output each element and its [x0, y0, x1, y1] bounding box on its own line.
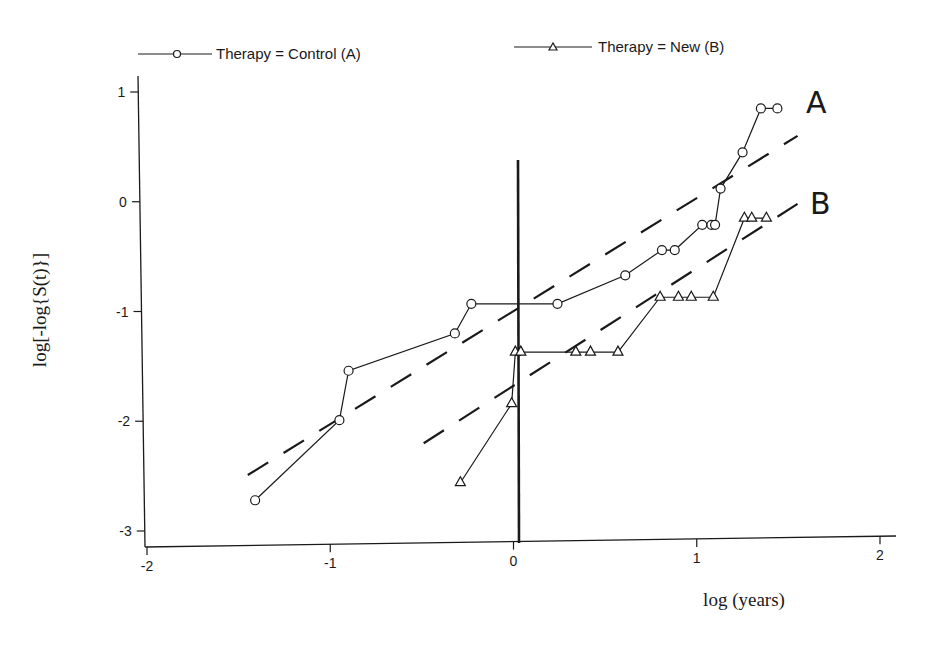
- x-tick-label: -2: [141, 558, 154, 574]
- y-tick-label: -2: [118, 413, 131, 429]
- triangle-marker-icon: [585, 346, 595, 355]
- circle-marker-icon: [174, 51, 181, 58]
- y-tick-label: -3: [119, 523, 132, 539]
- x-tick-label: 2: [876, 547, 884, 563]
- x-tick-label: 1: [693, 550, 701, 566]
- y-tick-label: 0: [119, 194, 127, 210]
- triangle-marker-icon: [761, 212, 771, 221]
- triangle-marker-icon: [507, 398, 517, 407]
- y-tick-label: -1: [116, 304, 129, 320]
- legend: Therapy = Control (A) Therapy = New (B): [138, 38, 724, 62]
- x-tick-label: 0: [510, 553, 518, 569]
- circle-marker-icon: [738, 148, 747, 157]
- triangle-marker-icon: [673, 291, 683, 300]
- x-axis-label: log (years): [703, 589, 785, 611]
- series-group: [251, 104, 782, 505]
- circle-marker-icon: [344, 366, 353, 375]
- curve-label-b: B: [810, 186, 831, 221]
- x-axis: [145, 536, 896, 547]
- circle-marker-icon: [711, 220, 720, 229]
- km-loglog-chart: Therapy = Control (A) Therapy = New (B) …: [0, 0, 938, 648]
- circle-marker-icon: [251, 496, 260, 505]
- legend-label-control: Therapy = Control (A): [216, 45, 361, 62]
- circle-marker-icon: [657, 246, 666, 255]
- circle-marker-icon: [698, 220, 707, 229]
- fitted-lines: [248, 136, 798, 475]
- circle-marker-icon: [756, 104, 765, 113]
- triangle-marker-icon: [708, 291, 718, 300]
- fitted-line-B: [424, 204, 798, 443]
- fitted-line-A: [248, 136, 798, 475]
- legend-item-new: Therapy = New (B): [514, 38, 724, 55]
- triangle-marker-icon: [747, 212, 757, 221]
- circle-marker-icon: [450, 329, 459, 338]
- series-control-a: [251, 104, 782, 505]
- triangle-marker-icon: [655, 291, 665, 300]
- curve-label-a: A: [806, 85, 827, 120]
- triangle-marker-icon: [686, 291, 696, 300]
- x-tick-label: -1: [324, 555, 337, 571]
- circle-marker-icon: [553, 299, 562, 308]
- circle-marker-icon: [467, 299, 476, 308]
- circle-marker-icon: [621, 271, 630, 280]
- circle-marker-icon: [773, 104, 782, 113]
- y-tick-label: 1: [117, 84, 125, 100]
- circle-marker-icon: [335, 416, 344, 425]
- series-new-b: [455, 212, 771, 485]
- legend-label-new: Therapy = New (B): [598, 38, 724, 55]
- y-axis-label: log[-log{S(t)}]: [29, 253, 51, 367]
- circle-marker-icon: [716, 184, 725, 193]
- circle-marker-icon: [670, 246, 679, 255]
- y-ticks: 10-1-2-3: [116, 84, 145, 539]
- legend-item-control: Therapy = Control (A): [138, 45, 361, 62]
